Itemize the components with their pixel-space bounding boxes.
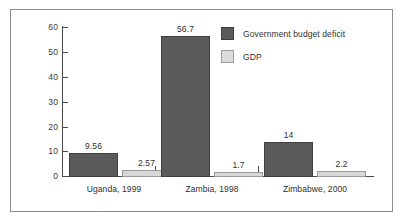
y-axis-label-20: 20	[18, 122, 58, 132]
y-axis-label-0: 0	[18, 171, 58, 181]
x-axis-label-uganda: Uganda, 1999	[64, 184, 164, 194]
y-axis-label-10: 10	[18, 146, 58, 156]
bar-label-zambia-deficit: 56.7	[161, 24, 210, 34]
bar-label-zimbabwe-deficit: 14	[264, 130, 313, 140]
x-axis-label-zambia: Zambia, 1998	[162, 184, 262, 194]
bar-label-zambia-gdp: 1.7	[214, 160, 263, 170]
bar-zambia-deficit[interactable]	[161, 36, 210, 177]
y-axis-tick-50	[63, 52, 68, 53]
chart-legend: Government budget deficit GDP	[221, 26, 381, 72]
x-axis-label-zimbabwe: Zimbabwe, 2000	[265, 184, 365, 194]
y-axis-label-30: 30	[18, 97, 58, 107]
legend-swatch-icon-gdp	[221, 50, 234, 63]
y-axis-tick-20	[63, 127, 68, 128]
bar-chart-plot-area: 60 50 40 30 20 10 0 9.56 2.57 Uganda, 19…	[0, 0, 406, 224]
y-axis-tick-60	[63, 27, 68, 28]
y-axis-tick-0	[63, 176, 68, 177]
y-axis-tick-10	[63, 151, 68, 152]
bar-uganda-deficit[interactable]	[69, 153, 118, 177]
legend-item-government-budget-deficit[interactable]: Government budget deficit	[221, 26, 381, 43]
figure: 60 50 40 30 20 10 0 9.56 2.57 Uganda, 19…	[0, 0, 406, 224]
y-axis-tick-30	[63, 102, 68, 103]
y-axis-tick-40	[63, 77, 68, 78]
legend-swatch-icon-deficit	[221, 27, 234, 40]
y-axis-label-40: 40	[18, 72, 58, 82]
bar-zimbabwe-deficit[interactable]	[264, 142, 313, 177]
legend-label-deficit: Government budget deficit	[243, 29, 345, 39]
y-axis-label-50: 50	[18, 47, 58, 57]
bar-label-uganda-deficit: 9.56	[69, 141, 118, 151]
legend-item-gdp[interactable]: GDP	[221, 49, 381, 66]
legend-label-gdp: GDP	[243, 52, 262, 62]
bar-zimbabwe-gdp[interactable]	[317, 171, 366, 177]
bar-label-zimbabwe-gdp: 2.2	[317, 159, 366, 169]
bar-zambia-gdp[interactable]	[214, 172, 263, 177]
y-axis-label-60: 60	[18, 22, 58, 32]
